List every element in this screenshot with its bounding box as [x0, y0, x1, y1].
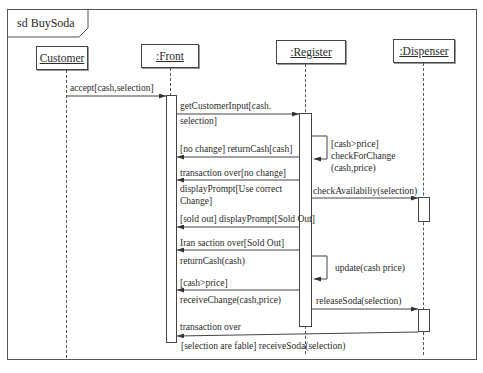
message-update[interactable]: update(cash price) — [335, 263, 405, 274]
message-get-customer-input-2[interactable]: selection] — [180, 116, 217, 127]
message-receive-change[interactable]: receiveChange(cash,price) — [180, 295, 281, 306]
message-check-for-change-2[interactable]: checkForChange — [331, 151, 395, 162]
message-return-cash-no-change[interactable]: [no change] returnCash[cash] — [180, 144, 292, 155]
message-cash-greater-price[interactable]: [cash>price] — [180, 278, 228, 289]
message-display-prompt-sold-out[interactable]: [sold out] displayPrompt[Sold Out] — [180, 214, 315, 225]
message-check-availability[interactable]: checkAvailabiliy(selection) — [313, 186, 417, 197]
message-return-cash[interactable]: returnCash(cash) — [180, 256, 245, 267]
message-release-soda[interactable]: releaseSoda(selection) — [316, 296, 401, 307]
message-display-prompt-correct-1[interactable]: displayPrompt[Use correct — [180, 184, 282, 195]
message-receive-soda[interactable]: [selection are fable] receiveSoda(select… — [181, 341, 345, 352]
message-check-for-change-1[interactable]: [cash>price] — [331, 139, 379, 150]
message-transaction-over[interactable]: transaction over — [180, 322, 241, 333]
message-check-for-change-3[interactable]: (cash,price) — [331, 163, 376, 174]
message-transaction-over-sold-out[interactable]: Iran saction over[Sold Out] — [180, 238, 284, 249]
message-display-prompt-correct-2[interactable]: Change] — [180, 196, 212, 207]
message-get-customer-input-1[interactable]: getCustomerInput[cash. — [180, 101, 271, 112]
message-transaction-over-no-change[interactable]: transaction over[no change] — [180, 168, 286, 179]
message-accept[interactable]: accept[cash,selection] — [70, 83, 154, 94]
